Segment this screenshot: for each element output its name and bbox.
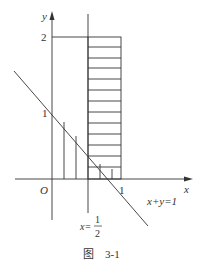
horizontal-hatching (88, 47, 121, 167)
y-tick-1-label: 1 (42, 107, 48, 119)
figure-caption-prefix: 图 (83, 248, 94, 260)
origin-label: O (40, 184, 48, 196)
x-axis-label: x (183, 183, 189, 195)
y-tick-2-label: 2 (41, 31, 47, 43)
x-tick-1-label: 1 (119, 184, 125, 196)
line-x-plus-y-eq-1 (14, 71, 148, 226)
figure-caption-number: 3-1 (105, 248, 120, 260)
vertical-line-label-denominator: 2 (95, 228, 100, 239)
diagram-canvas: y x O 2 1 1 x+y=1 x= 1 2 图 3-1 (0, 0, 197, 272)
y-axis-label: y (41, 10, 47, 22)
diagonal-line-label: x+y=1 (146, 195, 177, 207)
vertical-line-label-numerator: 1 (95, 214, 100, 225)
y-axis-arrow-icon (50, 11, 55, 20)
vertical-line-label-prefix: x= (79, 221, 91, 232)
x-axis-arrow-icon (184, 177, 193, 182)
